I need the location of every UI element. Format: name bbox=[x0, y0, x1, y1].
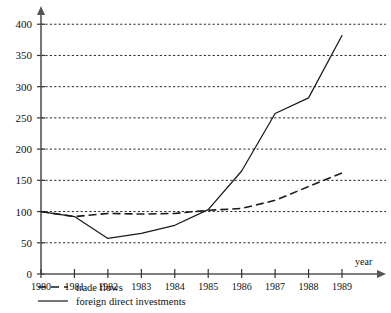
y-axis-tick-label: 300 bbox=[16, 81, 33, 93]
x-axis-tick-label: 1984 bbox=[165, 281, 185, 292]
y-axis-arrow-icon bbox=[37, 6, 45, 15]
y-axis-tick-label: 100 bbox=[16, 206, 33, 218]
y-axis-tick-label: 200 bbox=[16, 143, 33, 155]
legend: trade flows foreign direct investments bbox=[38, 282, 186, 307]
x-axis-tick-label: 1988 bbox=[299, 281, 319, 292]
y-axis-tick-label: 150 bbox=[16, 174, 33, 186]
y-axis-tick-label: 400 bbox=[16, 18, 33, 30]
x-axis-arrow-icon bbox=[377, 270, 386, 278]
x-axis-tick-label: 1989 bbox=[332, 281, 352, 292]
series-line-trade-flows bbox=[41, 173, 342, 217]
y-axis-tick-label: 0 bbox=[27, 268, 33, 280]
x-axis-tick-label: 1985 bbox=[198, 281, 218, 292]
x-axis-tick-label: 1987 bbox=[265, 281, 285, 292]
y-axis-tick-label: 250 bbox=[16, 112, 33, 124]
legend-label-trade-flows: trade flows bbox=[76, 282, 123, 293]
legend-label-foreign-direct-investments: foreign direct investments bbox=[76, 296, 186, 307]
x-axis-label: year bbox=[355, 256, 373, 267]
x-axis-tick-label: 1986 bbox=[232, 281, 252, 292]
x-axis-tick-label: 1983 bbox=[131, 281, 151, 292]
y-axis-tick-label: 50 bbox=[21, 237, 33, 249]
series-line-foreign-direct-investments bbox=[41, 35, 342, 238]
y-axis-tick-labels-group: 050100150200250300350400 bbox=[16, 18, 33, 280]
chart-canvas: 050100150200250300350400 198019811982198… bbox=[0, 0, 391, 313]
y-axis-tick-label: 350 bbox=[16, 49, 33, 61]
line-chart: 050100150200250300350400 198019811982198… bbox=[0, 0, 391, 313]
